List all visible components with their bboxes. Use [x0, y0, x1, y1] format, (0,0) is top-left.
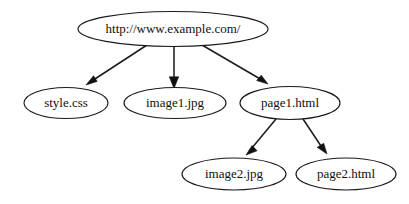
node-label: page1.html [261, 95, 320, 110]
node-page2-html[interactable]: page2.html [296, 158, 396, 190]
node-label: style.css [44, 95, 88, 110]
edge-line [202, 45, 265, 82]
arrowhead-icon [86, 76, 97, 85]
arrowhead-icon [246, 146, 257, 155]
graph-canvas: http://www.example.com/ style.css image1… [0, 0, 409, 204]
link-graph-diagram: http://www.example.com/ style.css image1… [0, 0, 409, 204]
arrowhead-icon [169, 77, 178, 89]
node-image2-jpg[interactable]: image2.jpg [182, 158, 286, 190]
edge-line [90, 45, 148, 83]
edge-root-to-page1 [202, 45, 268, 84]
edge-root-to-image1 [169, 46, 178, 89]
node-label: image1.jpg [146, 95, 205, 110]
node-style-css[interactable]: style.css [24, 88, 108, 119]
node-label: page2.html [317, 166, 376, 181]
edge-page1-to-image2 [246, 119, 276, 155]
node-label: http://www.example.com/ [106, 21, 241, 36]
edge-root-to-style [86, 45, 147, 85]
arrowhead-icon [317, 143, 327, 154]
node-page1-html[interactable]: page1.html [240, 87, 340, 120]
node-root[interactable]: http://www.example.com/ [78, 12, 268, 47]
edge-page1-to-page2 [303, 119, 327, 154]
node-image1-jpg[interactable]: image1.jpg [124, 88, 226, 119]
node-label: image2.jpg [205, 166, 264, 181]
arrowhead-icon [257, 75, 268, 84]
node-layer: http://www.example.com/ style.css image1… [24, 12, 396, 191]
